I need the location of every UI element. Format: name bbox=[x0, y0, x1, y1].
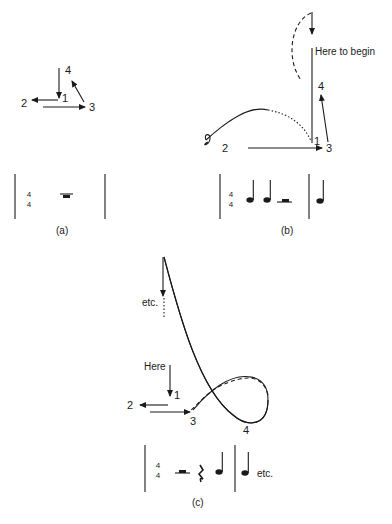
panel-a-beat-1: 1 bbox=[62, 92, 68, 104]
panel-c-caption: (c) bbox=[192, 497, 204, 509]
panel-a-pattern bbox=[32, 68, 85, 107]
panel-b-staff bbox=[220, 174, 324, 219]
panel-b-beat-4: 4 bbox=[318, 80, 324, 92]
diagram-strokes bbox=[0, 0, 392, 524]
panel-b-time-sig-bottom: 4 bbox=[227, 201, 235, 209]
panel-b-beat-1: 1 bbox=[314, 135, 320, 147]
panel-a-beat-2: 2 bbox=[21, 97, 27, 109]
panel-c-beat-1: 1 bbox=[174, 389, 180, 401]
panel-c-continue-annotation: etc. bbox=[142, 297, 158, 309]
panel-a-beat-4: 4 bbox=[65, 64, 71, 76]
panel-c-beat-4: 4 bbox=[243, 424, 249, 436]
panel-c-start-annotation: Here bbox=[144, 361, 166, 373]
panel-c-notation-continue: etc. bbox=[257, 468, 273, 480]
panel-b-caption: (b) bbox=[281, 225, 293, 237]
panel-b-beat-2: 2 bbox=[222, 142, 228, 154]
panel-c-time-sig-top: 4 bbox=[154, 462, 162, 470]
panel-c-beat-3: 3 bbox=[190, 415, 196, 427]
panel-b-time-sig-top: 4 bbox=[227, 191, 235, 199]
panel-a-beat-3: 3 bbox=[89, 101, 95, 113]
conducting-patterns-figure: 4 2 1 3 4 4 (a) Here to begin 4 1 2 3 4 … bbox=[0, 0, 392, 524]
panel-a-time-sig-top: 4 bbox=[25, 191, 33, 199]
panel-c-beat-2: 2 bbox=[127, 399, 133, 411]
panel-b-beat-3: 3 bbox=[326, 142, 332, 154]
panel-c-time-sig-bottom: 4 bbox=[154, 472, 162, 480]
panel-b-start-annotation: Here to begin bbox=[315, 46, 375, 58]
panel-a-time-sig-bottom: 4 bbox=[25, 201, 33, 209]
panel-a-caption: (a) bbox=[56, 225, 68, 237]
panel-b-pattern bbox=[205, 12, 328, 148]
panel-c-pattern bbox=[140, 257, 268, 423]
